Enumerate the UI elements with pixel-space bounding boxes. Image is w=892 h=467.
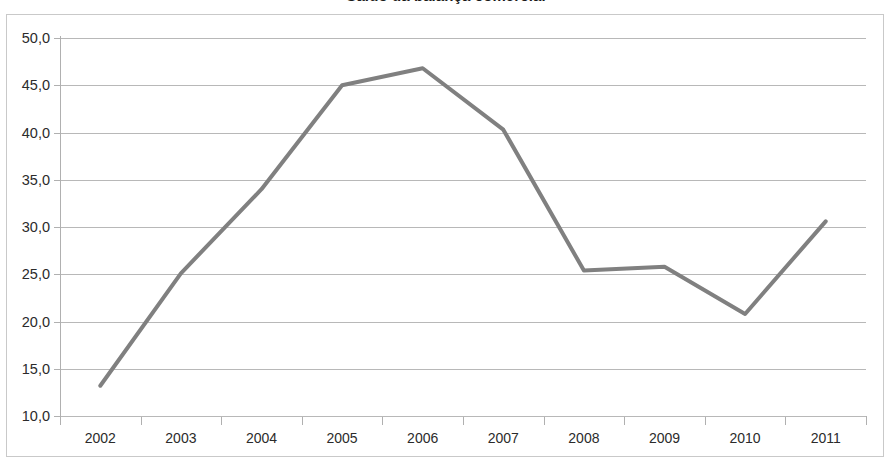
gridline	[60, 38, 866, 39]
y-axis-label: 30,0	[4, 219, 50, 235]
y-axis-label: 20,0	[4, 314, 50, 330]
y-axis-label: 35,0	[4, 172, 50, 188]
gridline	[60, 227, 866, 228]
x-tick-mark	[544, 417, 545, 425]
y-axis-label: 10,0	[4, 408, 50, 424]
y-tick-mark	[54, 322, 61, 323]
x-axis-label: 2002	[85, 430, 116, 446]
x-axis-label: 2003	[165, 430, 196, 446]
y-tick-mark	[54, 85, 61, 86]
y-axis-label: 15,0	[4, 361, 50, 377]
x-tick-mark	[705, 417, 706, 425]
x-tick-mark	[624, 417, 625, 425]
y-tick-mark	[54, 180, 61, 181]
y-axis-label: 50,0	[4, 30, 50, 46]
x-tick-mark	[785, 417, 786, 425]
x-axis-label: 2005	[327, 430, 358, 446]
y-axis-label: 40,0	[4, 125, 50, 141]
x-tick-mark	[141, 417, 142, 425]
y-tick-mark	[54, 227, 61, 228]
x-tick-mark	[866, 417, 867, 425]
x-axis-label: 2010	[730, 430, 761, 446]
x-axis-label: 2011	[811, 430, 841, 446]
y-tick-mark	[54, 369, 61, 370]
x-axis-label: 2009	[649, 430, 680, 446]
x-axis-label: 2006	[407, 430, 438, 446]
y-axis-label: 45,0	[4, 77, 50, 93]
y-axis-label: 25,0	[4, 266, 50, 282]
chart-title: Saldo da balança comercial	[0, 0, 892, 9]
x-tick-mark	[463, 417, 464, 425]
gridline	[60, 369, 866, 370]
gridline	[60, 274, 866, 275]
gridline	[60, 180, 866, 181]
x-tick-mark	[60, 417, 61, 425]
x-axis-label: 2007	[488, 430, 519, 446]
x-tick-mark	[302, 417, 303, 425]
y-tick-mark	[54, 274, 61, 275]
y-tick-mark	[54, 38, 61, 39]
x-tick-mark	[382, 417, 383, 425]
y-axis-labels: 50,045,040,035,030,025,020,015,010,0	[0, 0, 50, 467]
x-tick-mark	[221, 417, 222, 425]
gridline	[60, 85, 866, 86]
gridline	[60, 322, 866, 323]
line-chart: Saldo da balança comercial 50,045,040,03…	[0, 0, 892, 467]
x-axis-label: 2004	[246, 430, 277, 446]
y-tick-mark	[54, 133, 61, 134]
chart-frame	[6, 14, 884, 457]
gridline	[60, 133, 866, 134]
x-axis-label: 2008	[568, 430, 599, 446]
